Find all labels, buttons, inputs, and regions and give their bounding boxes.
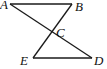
- label-d: D: [93, 53, 104, 68]
- label-c: C: [56, 25, 65, 40]
- geometry-diagram: A B C E D: [0, 0, 107, 69]
- label-b: B: [75, 0, 83, 14]
- label-a: A: [0, 0, 8, 12]
- label-e: E: [19, 53, 28, 68]
- segment-be: [33, 4, 72, 58]
